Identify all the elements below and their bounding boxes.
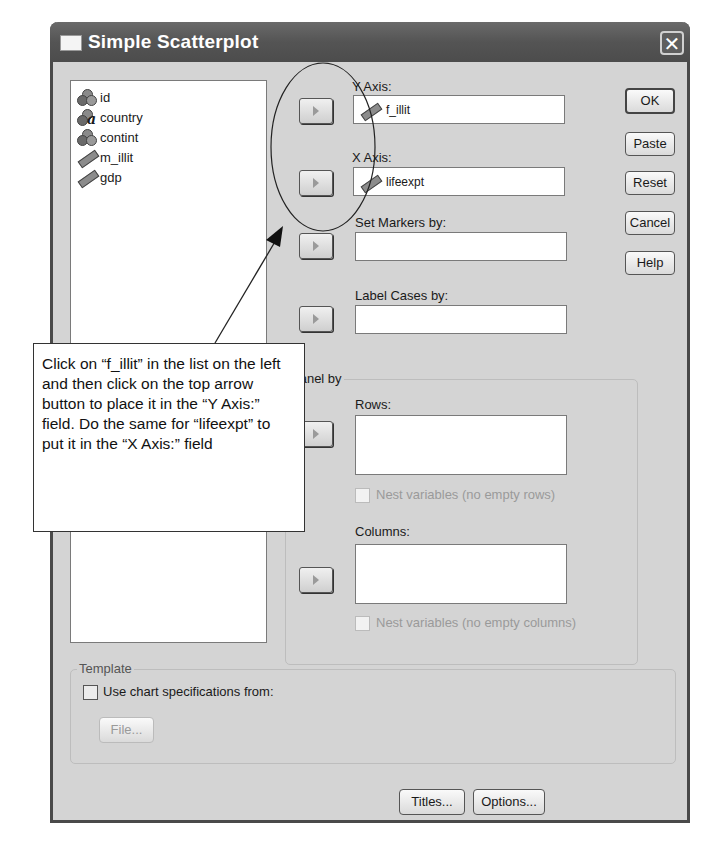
annotation-callout: Click on “f_illit” in the list on the le…: [33, 343, 305, 532]
